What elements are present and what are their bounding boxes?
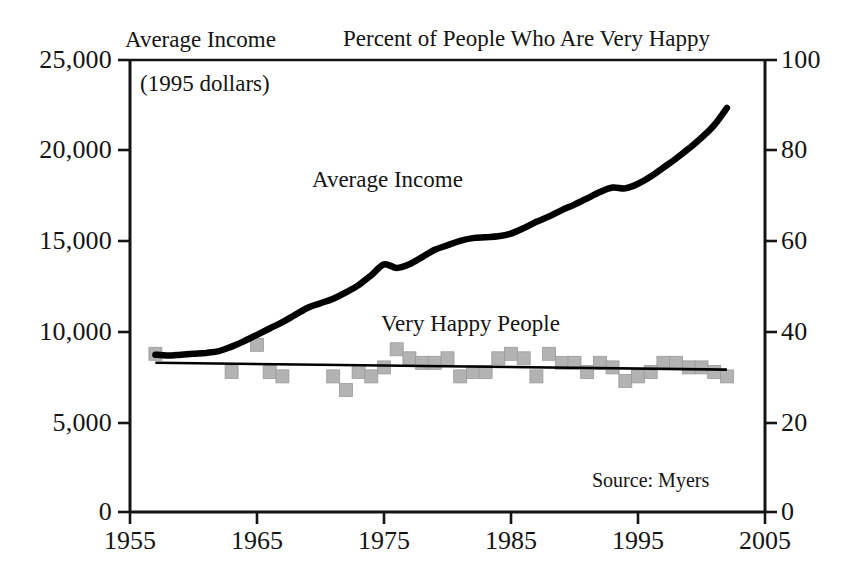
y-right-tick-60: 60 xyxy=(781,228,807,254)
very-happy-marker xyxy=(327,370,340,383)
very-happy-marker xyxy=(492,352,505,365)
y-right-tick-0: 0 xyxy=(781,499,794,525)
y-right-tick-80: 80 xyxy=(781,137,807,163)
y-axis-right-ticks xyxy=(765,60,777,512)
y-right-tick-20: 20 xyxy=(781,410,807,436)
x-tick-1955: 1955 xyxy=(104,528,156,554)
y-right-tick-100: 100 xyxy=(781,47,821,73)
axis-frame xyxy=(130,60,765,512)
very-happy-marker xyxy=(670,356,683,369)
right-axis-title: Percent of People Who Are Very Happy xyxy=(343,27,710,50)
y-left-tick-25000: 25,000 xyxy=(0,47,112,73)
average-income-label: Average Income xyxy=(312,168,463,191)
very-happy-marker xyxy=(682,361,695,374)
y-left-tick-10000: 10,000 xyxy=(0,319,112,345)
x-tick-1965: 1965 xyxy=(231,528,283,554)
x-tick-1985: 1985 xyxy=(485,528,537,554)
very-happy-marker xyxy=(657,356,670,369)
very-happy-marker xyxy=(390,343,403,356)
very-happy-marker xyxy=(720,370,733,383)
very-happy-people-label: Very Happy People xyxy=(381,312,560,335)
very-happy-marker xyxy=(619,374,632,387)
units-note: (1995 dollars) xyxy=(140,72,270,95)
left-axis-title: Average Income xyxy=(125,28,276,51)
y-left-tick-5000: 5,000 xyxy=(0,410,112,436)
very-happy-marker xyxy=(378,361,391,374)
very-happy-marker xyxy=(505,347,518,360)
very-happy-marker xyxy=(339,384,352,397)
y-left-tick-20000: 20,000 xyxy=(0,137,112,163)
very-happy-marker xyxy=(365,370,378,383)
chart-figure: Average Income Percent of People Who Are… xyxy=(0,0,854,574)
very-happy-marker xyxy=(416,356,429,369)
very-happy-marker xyxy=(632,370,645,383)
very-happy-marker xyxy=(543,347,556,360)
very-happy-marker xyxy=(403,352,416,365)
very-happy-marker xyxy=(441,352,454,365)
very-happy-marker xyxy=(225,365,238,378)
y-left-tick-0: 0 xyxy=(0,499,112,525)
chart-canvas xyxy=(0,0,854,574)
source-note: Source: Myers xyxy=(592,470,709,490)
y-axis-left-ticks xyxy=(118,60,130,512)
x-tick-1975: 1975 xyxy=(358,528,410,554)
y-left-tick-15000: 15,000 xyxy=(0,228,112,254)
very-happy-marker xyxy=(708,365,721,378)
y-right-tick-40: 40 xyxy=(781,319,807,345)
very-happy-marker xyxy=(276,370,289,383)
very-happy-marker xyxy=(530,370,543,383)
x-axis-ticks xyxy=(130,512,765,524)
very-happy-marker xyxy=(454,370,467,383)
x-tick-2005: 2005 xyxy=(739,528,791,554)
very-happy-marker xyxy=(517,352,530,365)
x-tick-1995: 1995 xyxy=(612,528,664,554)
very-happy-marker xyxy=(695,361,708,374)
very-happy-marker xyxy=(263,365,276,378)
very-happy-marker xyxy=(352,365,365,378)
